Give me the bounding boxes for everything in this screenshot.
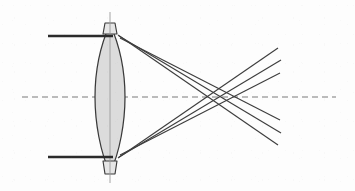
spherical-aberration-diagram <box>0 0 355 191</box>
ray-diagram-canvas <box>0 0 355 191</box>
diagram-background <box>0 0 355 191</box>
